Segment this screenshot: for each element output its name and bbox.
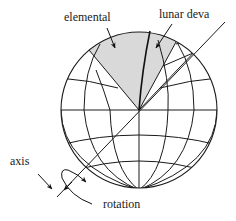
label-axis: axis — [10, 154, 30, 168]
globe-diagram: elemental lunar deva axis rotation — [0, 0, 236, 221]
label-elemental: elemental — [64, 10, 111, 24]
label-lunar-deva: lunar deva — [159, 7, 210, 21]
axis-arrow — [38, 174, 52, 189]
shaded-sector — [89, 32, 176, 110]
label-rotation: rotation — [103, 197, 140, 211]
